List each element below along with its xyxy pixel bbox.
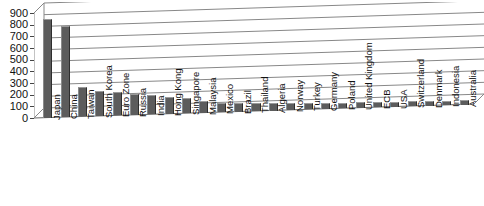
y-tick-label: 400 [10,66,28,77]
x-tick-label: Australia [468,70,478,107]
x-tick-label: Japan [52,94,62,120]
x-tick-label: Singapore [191,72,201,115]
x-tick-label: United Kingdom [364,42,374,110]
x-tick-label: Brazil [243,90,253,114]
x-tick-label: Taiwan [86,89,96,119]
x-tick-label: Poland [347,81,357,111]
x-tick-label: Germany [329,72,339,111]
x-tick-label: Euro Zone [121,73,131,117]
x-tick-label: Russia [138,88,148,117]
x-tick-label: ECB [382,90,392,110]
y-tick-label: 700 [10,31,28,42]
y-tick-label: 0 [22,113,28,124]
x-tick-label: South Korea [104,65,114,118]
x-tick-label: Indonesia [451,66,461,107]
y-tick-label: 800 [10,19,28,30]
x-tick-label: Malaysia [208,77,218,115]
x-tick-label: Switzerland [416,59,426,108]
y-tick-label: 100 [10,101,28,112]
x-tick-label: Denmark [434,69,444,108]
y-tick-label: 200 [10,89,28,100]
y-tick-label: 300 [10,78,28,89]
x-tick-label: India [156,96,166,117]
x-tick-label: Hong Kong [173,68,183,116]
y-axis: 0100200300400500600700800900 [0,0,34,128]
y-tick-label: 900 [10,8,28,19]
x-tick-label: Algeria [277,83,287,113]
y-tick-label: 500 [10,54,28,65]
x-tick-label: Norway [295,80,305,112]
x-tick-label: Thailand [260,77,270,113]
x-axis: JapanChinaTaiwanSouth KoreaEuro ZoneRuss… [34,126,484,206]
x-tick-label: Mexico [225,84,235,114]
x-tick-label: Turkey [312,83,322,112]
y-tick-label: 600 [10,43,28,54]
x-tick-label: USA [399,89,409,109]
bar-chart: 0100200300400500600700800900 JapanChinaT… [0,0,484,206]
x-tick-label: China [69,94,79,119]
